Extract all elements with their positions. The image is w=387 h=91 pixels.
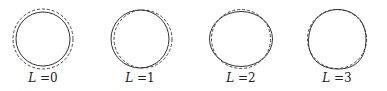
panel-label-l0: L =0 bbox=[28, 71, 58, 85]
panel-l1-shapes bbox=[111, 10, 172, 68]
panel-label-l3: L =3 bbox=[322, 71, 352, 85]
panel-l0-shapes bbox=[13, 9, 73, 69]
deformed-shape-l1 bbox=[111, 10, 169, 68]
label-value: 1 bbox=[147, 71, 155, 85]
deformed-shape-l3 bbox=[308, 9, 366, 69]
reference-circle-l1 bbox=[114, 10, 172, 68]
label-equals: = bbox=[40, 71, 50, 85]
label-variable: L bbox=[125, 71, 133, 85]
deformed-shape-l2 bbox=[210, 12, 273, 67]
panel-l2-shapes bbox=[210, 10, 273, 69]
label-variable: L bbox=[28, 71, 36, 85]
deformed-shape-l0 bbox=[16, 12, 70, 66]
label-equals: = bbox=[334, 71, 344, 85]
label-value: 3 bbox=[344, 71, 352, 85]
label-variable: L bbox=[226, 71, 234, 85]
reference-circle-l0 bbox=[13, 9, 73, 69]
label-equals: = bbox=[137, 71, 147, 85]
label-value: 0 bbox=[50, 71, 58, 85]
label-value: 2 bbox=[248, 71, 256, 85]
label-variable: L bbox=[322, 71, 330, 85]
label-equals: = bbox=[238, 71, 248, 85]
panel-label-l1: L =1 bbox=[125, 71, 155, 85]
panel-label-l2: L =2 bbox=[226, 71, 256, 85]
multipole-deformation-figure: L =0 L =1 L =2 L =3 bbox=[0, 0, 387, 91]
panel-l3-shapes bbox=[308, 9, 367, 69]
